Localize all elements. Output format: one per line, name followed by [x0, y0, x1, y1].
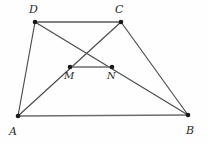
point-label-B: B	[186, 125, 194, 136]
vertex-dot-M	[68, 65, 73, 70]
vertex-dot-B	[186, 113, 191, 118]
vertex-dot-D	[33, 20, 38, 25]
geometry-canvas	[0, 0, 209, 145]
segment-AB	[18, 115, 188, 116]
point-label-D: D	[29, 4, 38, 15]
point-label-N: N	[107, 71, 116, 81]
point-label-A: A	[9, 126, 17, 137]
vertex-dot-C	[119, 20, 124, 25]
point-label-M: M	[64, 71, 74, 81]
segment-CB	[121, 22, 188, 115]
point-label-C: C	[115, 4, 123, 15]
segment-AD	[18, 22, 35, 116]
geometry-figure: D C A B M N	[0, 0, 209, 145]
vertex-dot-A	[16, 114, 21, 119]
vertex-dot-N	[110, 65, 115, 70]
